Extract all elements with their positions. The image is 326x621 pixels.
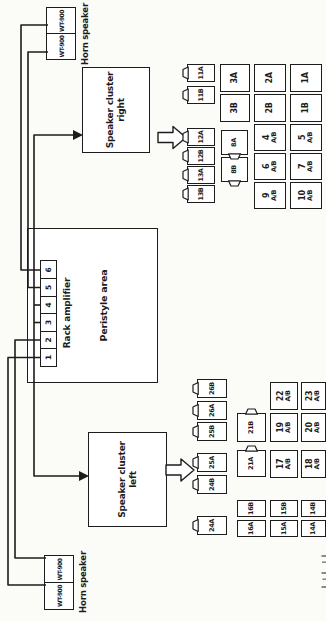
cell-10AB: 10A/B [290,182,322,209]
horn-speaker-left-box-2: WT-900 [44,556,74,584]
connector-26B: 26B [197,379,227,398]
connector-21A: 21A [237,450,266,477]
cell-4AB: 4A/B [254,124,286,151]
connector-12A: 12A [187,128,215,146]
connector-24B: 24B [197,475,227,494]
connector-13B: 13B [187,185,215,203]
rotated-wiring-diagram: 1 2 3 4 5 6 Rack amplifier Peristyle are… [0,0,326,621]
connector-13A: 13A [187,166,215,184]
terminal-3: 3 [40,313,57,332]
connector-25A: 25A [197,453,227,472]
cell-16B: 16B [237,500,266,517]
hollow-arrow-left-grid [166,459,194,481]
cell-15B: 15B [270,500,298,517]
rack-amplifier-terminal-strip: 1 2 3 4 5 6 [40,261,57,368]
cell-15A: 15A [270,520,298,537]
cell-7AB: 7A/B [290,153,322,180]
cell-14B: 14B [301,500,326,517]
cell-20AB: 20A/B [301,413,326,442]
terminal-2: 2 [40,331,57,350]
connector-11B: 11B [187,86,215,104]
terminal-4: 4 [40,296,57,315]
connector-26A: 26A [197,401,227,420]
connector-8B: 8B [221,157,248,182]
wire-terminal1-horn-left-outer [8,358,46,586]
terminal-5: 5 [40,278,57,297]
cell-16A: 16A [237,520,266,537]
rack-amplifier-label: Rack amplifier [62,249,72,377]
horn-speaker-right-label: Horn speaker [80,3,90,65]
cell-22AB: 22A/B [270,382,298,410]
cell-3A: 3A [220,64,250,92]
cell-19AB: 19A/B [270,413,298,442]
cell-6AB: 6A/B [254,153,286,180]
edge-caption-fragments [322,555,326,588]
cell-2B: 2B [254,94,286,122]
horn-speaker-left-box-1: WT-900 [44,582,74,610]
speaker-cluster-right-box: Speaker clusterright [82,67,150,153]
connector-11A: 11A [187,64,215,82]
cell-23AB: 23A/B [301,382,326,410]
connector-8A: 8A [221,130,248,155]
connector-24A: 24A [197,516,227,535]
terminal-1: 1 [40,348,57,367]
cell-5AB: 5A/B [290,124,322,151]
cell-1A: 1A [290,64,322,92]
connector-25B: 25B [197,422,227,441]
cell-1B: 1B [290,94,322,122]
cell-17AB: 17A/B [270,450,298,478]
cell-18AB: 18A/B [301,450,326,478]
terminal-6: 6 [40,261,57,280]
horn-speaker-left-label: Horn speaker [78,545,88,619]
cell-14A: 14A [301,520,326,537]
horn-speaker-right-box-2: WT-900 [46,8,76,35]
cell-2A: 2A [254,64,286,92]
connector-21B: 21B [237,413,266,442]
cell-3B: 3B [220,94,250,122]
hollow-arrow-right-grid [158,127,186,149]
cell-9AB: 9A/B [254,182,286,209]
connector-12B: 12B [187,147,215,165]
speaker-cluster-left-box: Speaker clusterleft [88,432,167,527]
horn-speaker-right-box-1: WT-900 [46,33,76,60]
peristyle-area-label: Peristyle area [98,228,109,383]
